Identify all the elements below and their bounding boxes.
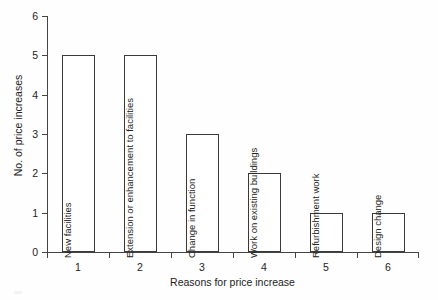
y-tick-label-1-wrap: 1 (0, 208, 38, 219)
x-tick-boundary-2 (171, 252, 172, 258)
bar-label-5: Refurbishment work (311, 174, 321, 258)
x-tick-boundary-1 (109, 252, 110, 258)
y-tick-label-0-wrap: 0 (0, 247, 38, 258)
y-tick-2 (42, 173, 48, 174)
x-tick-boundary-4 (295, 252, 296, 258)
y-tick-label-0: 0 (4, 247, 38, 258)
bar-label-6: Design change (373, 195, 383, 258)
y-axis-title: No. of price increases (13, 46, 24, 206)
x-tick-label-6: 6 (368, 261, 408, 273)
y-tick-1 (42, 213, 48, 214)
y-tick-label-6: 6 (4, 11, 38, 22)
x-tick-label-4: 4 (244, 261, 284, 273)
x-tick-boundary-6 (418, 252, 419, 258)
y-tick-6 (42, 16, 48, 17)
x-tick-label-2: 2 (120, 261, 160, 273)
y-tick-3 (42, 134, 48, 135)
x-tick-label-5: 5 (306, 261, 346, 273)
y-tick-label-1: 1 (4, 208, 38, 219)
bar-label-2: Extension or enhancement to facilities (125, 98, 135, 258)
bar-chart-figure: 0 1 2 3 4 5 6 1 2 3 4 5 6 New facilities… (0, 0, 438, 300)
y-tick-5 (42, 55, 48, 56)
scan-artifact-speck (14, 291, 22, 294)
bar-label-4: Work on existing buildings (249, 148, 259, 258)
bar-label-1: New facilities (63, 203, 73, 258)
y-tick-4 (42, 95, 48, 96)
x-tick-boundary-5 (357, 252, 358, 258)
bar-label-3: Change in function (187, 179, 197, 258)
x-tick-label-3: 3 (182, 261, 222, 273)
y-tick-label-6-wrap: 6 (0, 11, 38, 22)
x-tick-boundary-0 (47, 252, 48, 258)
x-tick-boundary-3 (233, 252, 234, 258)
x-tick-label-1: 1 (58, 261, 98, 273)
x-axis-title: Reasons for price increase (47, 276, 418, 288)
